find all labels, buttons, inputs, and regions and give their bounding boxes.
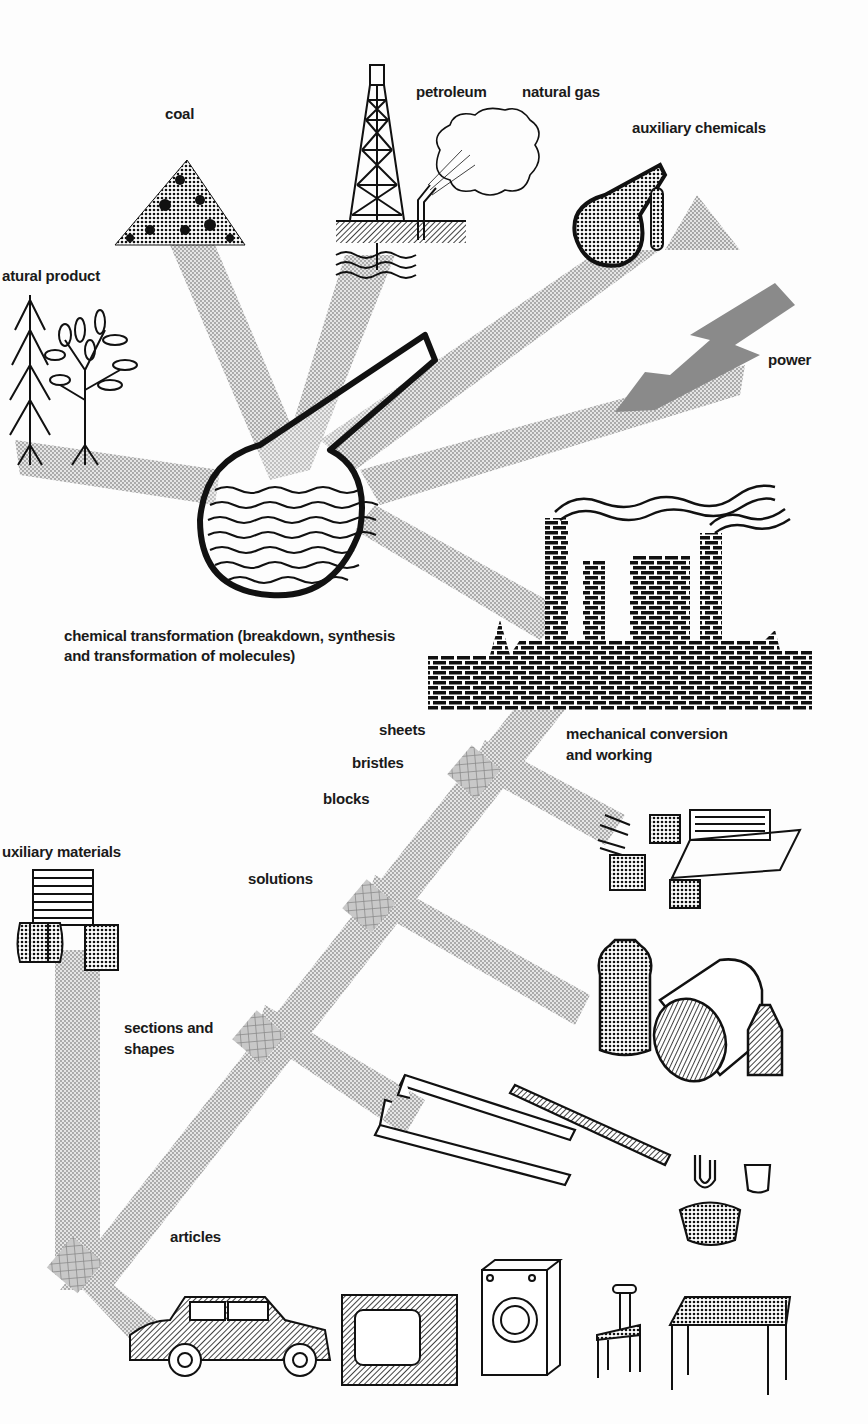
label-coal: coal — [165, 104, 194, 124]
label-blocks: blocks — [323, 789, 369, 809]
flask-icon — [574, 165, 740, 266]
television-icon — [342, 1295, 457, 1385]
label-auxiliary-chemicals: auxiliary chemicals — [632, 118, 766, 138]
label-bristles: bristles — [352, 753, 404, 773]
label-solutions: solutions — [248, 869, 313, 889]
washing-machine-icon — [482, 1260, 560, 1375]
profiles-icon — [375, 1075, 770, 1245]
label-power: power — [768, 350, 811, 370]
label-petroleum: petroleum — [416, 82, 487, 102]
label-natural-gas: natural gas — [522, 82, 600, 102]
label-mechanical-conversion-line1: mechanical conversion — [566, 724, 728, 744]
label-articles: articles — [170, 1227, 221, 1247]
label-sections-line2: shapes — [124, 1039, 175, 1059]
label-auxiliary-materials: uxiliary materials — [2, 842, 121, 862]
sheets-blocks-icon — [598, 810, 800, 908]
coal-icon — [115, 160, 245, 245]
label-natural-product: atural product — [2, 266, 100, 286]
chair-icon — [597, 1285, 640, 1378]
containers-icon — [599, 940, 782, 1091]
label-sections-line1: sections and — [124, 1018, 213, 1038]
table-icon — [670, 1297, 790, 1395]
label-mechanical-conversion-line2: and working — [566, 745, 652, 765]
label-sheets: sheets — [379, 720, 425, 740]
label-chemical-transformation-line1: chemical transformation (breakdown, synt… — [64, 626, 395, 646]
label-chemical-transformation-line2: and transformation of molecules) — [64, 646, 295, 666]
car-icon — [130, 1297, 330, 1376]
trees-icon — [10, 295, 137, 465]
diagram-artwork — [0, 0, 868, 1424]
